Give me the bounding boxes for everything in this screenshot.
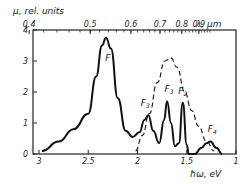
top-tick-label: 0.6	[125, 20, 138, 29]
top-tick-label: 0.8	[175, 20, 188, 29]
x-axis-label: ħω, eV	[190, 169, 222, 179]
x-tick-label: 2	[135, 157, 140, 166]
peak-label: F3	[165, 84, 174, 95]
top-axis-label: λ, μm	[195, 19, 222, 29]
peak-label: F4	[208, 124, 217, 135]
peak-label: F2	[178, 86, 187, 97]
top-tick-label: 0.5	[84, 20, 97, 29]
x-tick-label: 3	[36, 157, 41, 166]
axis-ticks	[29, 30, 236, 154]
y-tick-label: 3	[23, 57, 28, 66]
chart: 32.521.51012340.40.50.60.70.80.9FF3F3F2F…	[0, 0, 252, 184]
peak-label: F3	[141, 98, 150, 109]
y-tick-label: 2	[23, 88, 28, 97]
top-tick-label: 0.4	[23, 20, 36, 29]
y-axis-label: μ, rel. units	[12, 6, 64, 16]
x-tick-label: 1.5	[180, 157, 193, 166]
top-tick-label: 0.7	[154, 20, 168, 29]
x-tick-label: 1	[233, 157, 238, 166]
x-tick-label: 2.5	[82, 157, 95, 166]
y-tick-label: 0	[23, 150, 28, 159]
solid-curve	[42, 38, 222, 154]
y-tick-label: 1	[23, 119, 28, 128]
peak-label: F	[105, 53, 111, 63]
